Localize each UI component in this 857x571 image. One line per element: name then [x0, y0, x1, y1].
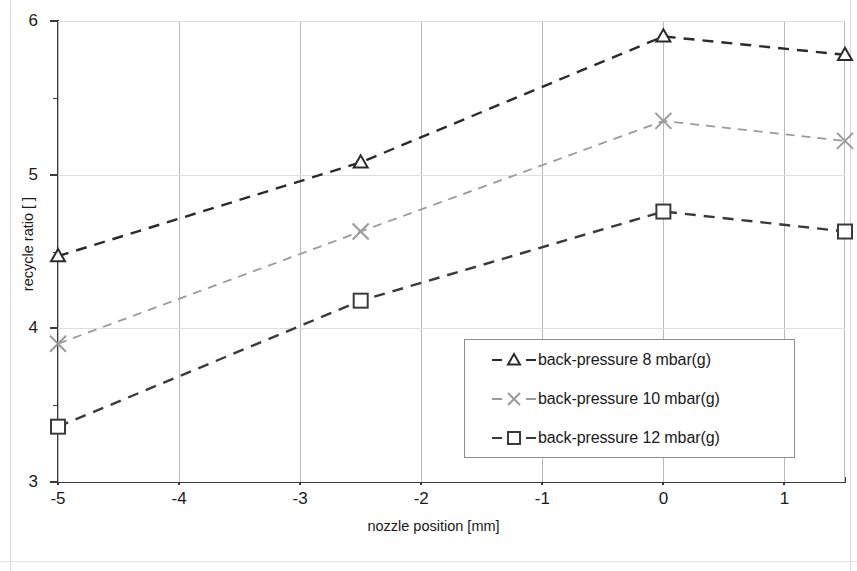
legend-item-1[interactable]: back-pressure 10 mbar(g): [465, 379, 794, 418]
marker-square: [656, 205, 670, 219]
marker-triangle: [656, 29, 670, 41]
x-tick-label: -1: [522, 490, 562, 507]
y-tick-label: 3: [4, 473, 38, 490]
page-canvas: 3456 -5-4-3-2-101 recycle ratio [ ] nozz…: [0, 0, 857, 571]
marker-x: [655, 113, 671, 129]
chart-legend: back-pressure 8 mbar(g)back-pressure 10 …: [464, 339, 795, 458]
legend-marker-square-icon: [490, 428, 538, 448]
legend-item-2[interactable]: back-pressure 12 mbar(g): [465, 418, 794, 457]
marker-square: [838, 225, 852, 239]
series-line: [58, 36, 845, 256]
x-tick-label: -2: [401, 490, 441, 507]
legend-label: back-pressure 12 mbar(g): [538, 429, 720, 447]
marker-x: [353, 224, 369, 240]
x-tick-label: -3: [280, 490, 320, 507]
x-tick-label: 0: [643, 490, 683, 507]
x-axis-title-text: nozzle position [mm]: [367, 518, 499, 534]
marker-triangle: [508, 354, 520, 365]
marker-square: [508, 432, 520, 444]
marker-square: [354, 294, 368, 308]
marker-triangle: [354, 155, 368, 167]
x-tick-label: -4: [159, 490, 199, 507]
y-tick-label: 6: [4, 12, 38, 29]
y-axis-title: recycle ratio [ ]: [20, 154, 36, 334]
x-tick-label: -5: [38, 490, 78, 507]
legend-marker-x-icon: [490, 389, 538, 409]
marker-square: [51, 420, 65, 434]
x-tick-minor: [845, 477, 846, 483]
x-axis-title: nozzle position [mm]: [0, 518, 857, 534]
x-tick-label: 1: [764, 490, 804, 507]
legend-item-0[interactable]: back-pressure 8 mbar(g): [465, 340, 794, 379]
series-0: [51, 29, 852, 261]
series-1: [50, 113, 853, 352]
legend-marker-triangle-icon: [490, 350, 538, 370]
legend-label: back-pressure 8 mbar(g): [538, 351, 711, 369]
legend-label: back-pressure 10 mbar(g): [538, 390, 720, 408]
recycle-ratio-line-chart: 3456 -5-4-3-2-101 recycle ratio [ ] nozz…: [0, 0, 857, 571]
marker-x: [50, 336, 66, 352]
marker-x: [508, 393, 520, 405]
series-line: [58, 121, 845, 344]
